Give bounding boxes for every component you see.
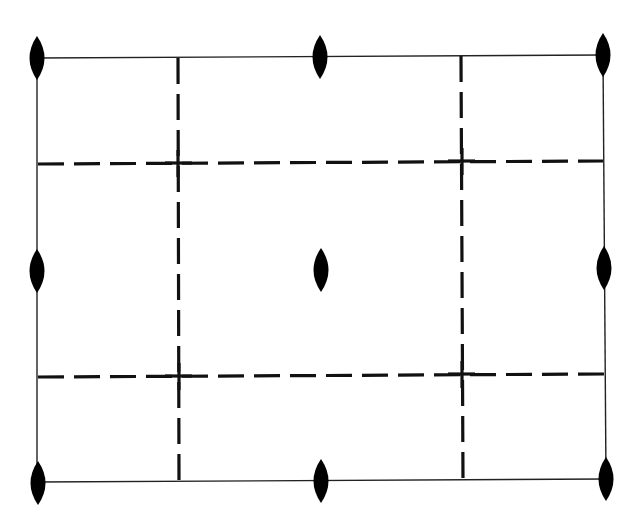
- symmetry-diagram: [0, 0, 640, 524]
- twofold-axis-icon-edge-bottom-mid: [314, 459, 329, 503]
- twofold-axis-icon-corner-bottom-right: [599, 457, 614, 501]
- twofold-axes: [30, 33, 614, 505]
- glide-line-vertical-1: [178, 58, 179, 481]
- twofold-axis-icon-corner-top-left: [30, 36, 45, 80]
- twofold-axis-icon-edge-right-mid: [597, 246, 612, 290]
- glide-line-vertical-2: [461, 56, 463, 480]
- twofold-axis-icon-edge-top-mid: [313, 35, 328, 79]
- twofold-axis-icon-corner-top-right: [596, 33, 611, 77]
- glide-line-horizontal-1: [38, 161, 603, 164]
- glide-line-horizontal-2: [38, 374, 605, 377]
- twofold-axis-icon-corner-bottom-left: [31, 461, 46, 505]
- twofold-axis-icon-edge-left-mid: [30, 249, 45, 293]
- twofold-axis-icon-center: [314, 248, 329, 292]
